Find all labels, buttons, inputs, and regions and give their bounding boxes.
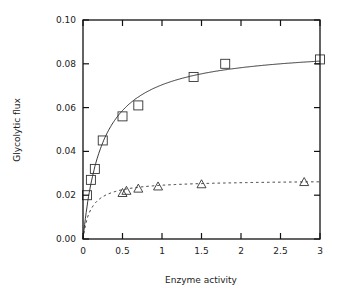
y-tick-label: 0.10	[56, 15, 76, 25]
x-tick-label: 0	[80, 246, 86, 256]
triangles-fit-curve	[83, 182, 320, 239]
y-tick-label: 0.06	[56, 103, 76, 113]
y-tick-label: 0.00	[56, 234, 76, 244]
data-points	[82, 55, 324, 200]
plot-frame	[83, 20, 320, 239]
y-tick-label: 0.08	[56, 59, 76, 69]
x-axis-ticks: 00.511.522.53	[80, 20, 323, 256]
square-marker	[134, 101, 143, 110]
y-tick-label: 0.02	[56, 190, 76, 200]
y-axis-ticks: 0.000.020.040.060.080.10	[56, 15, 320, 244]
x-tick-label: 0.5	[115, 246, 129, 256]
triangle-marker	[134, 184, 143, 192]
x-tick-label: 1.5	[194, 246, 208, 256]
x-tick-label: 2.5	[273, 246, 287, 256]
x-tick-label: 1	[159, 246, 165, 256]
y-tick-label: 0.04	[56, 146, 76, 156]
square-marker	[118, 112, 127, 121]
square-marker	[189, 72, 198, 81]
squares-fit-curve	[83, 61, 320, 239]
y-axis-label: Glycolytic flux	[12, 98, 22, 162]
square-marker	[221, 59, 230, 68]
x-axis-label: Enzyme activity	[165, 275, 237, 285]
chart: 00.511.522.53 0.000.020.040.060.080.10 E…	[0, 0, 338, 295]
fit-curves	[83, 61, 320, 239]
x-tick-label: 3	[317, 246, 323, 256]
x-tick-label: 2	[238, 246, 244, 256]
